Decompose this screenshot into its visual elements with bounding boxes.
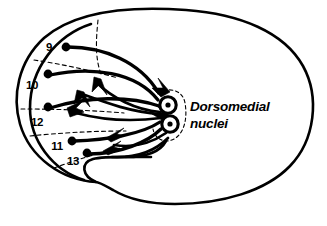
area-label-10: 10 [26, 79, 38, 91]
origin-dot-area-10 [44, 70, 53, 79]
origin-dot-area-12 [44, 103, 53, 112]
area-label-11: 11 [51, 140, 63, 152]
temporal-pole-notch [84, 157, 151, 182]
arrowhead-to-area-9 [92, 77, 107, 95]
tract-nucleus-to-area-9-return [96, 82, 160, 112]
dorsomedial-nucleus-lower-core [167, 121, 172, 126]
boundary-9-dorsal [96, 20, 101, 74]
nuclei-label-line-2: nuclei [190, 116, 228, 131]
area-label-13: 13 [67, 155, 79, 167]
tract-area-10-to-nucleus [50, 71, 158, 100]
dorsomedial-nucleus-upper-core [165, 102, 170, 107]
origin-dot-area-13 [83, 149, 92, 158]
dorsomedial-nuclei-caption: Dorsomedial nuclei [190, 99, 270, 131]
area-label-12: 12 [31, 116, 43, 128]
arrowhead-to-area-11 [106, 128, 124, 142]
brain-diagram-canvas: 9 10 12 11 13 Dorsomedial nuclei [0, 0, 327, 226]
nuclei-label-line-1: Dorsomedial [190, 99, 270, 114]
brain-schematic-figure: 9 10 12 11 13 Dorsomedial nuclei [0, 0, 327, 226]
origin-dot-area-11 [68, 137, 77, 146]
arrowhead-to-area-13 [103, 141, 121, 155]
area-label-9: 9 [46, 41, 52, 53]
origin-dot-area-9 [62, 43, 71, 52]
